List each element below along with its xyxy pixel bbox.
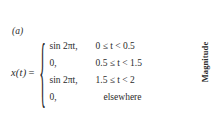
case-condition: 0.5 ≤ t < 1.5 — [92, 55, 154, 72]
case-condition: 1.5 ≤ t < 2 — [92, 72, 154, 89]
case-expression: sin 2πt, — [50, 72, 92, 89]
case-condition: elsewhere — [92, 89, 154, 106]
cases-grid: sin 2πt, 0 ≤ t < 0.5 0, 0.5 ≤ t < 1.5 si… — [50, 38, 154, 106]
case-condition: 0 ≤ t < 0.5 — [92, 38, 154, 55]
case-expression: 0, — [50, 89, 92, 106]
case-expression: 0, — [50, 55, 92, 72]
equals-sign: = — [26, 67, 34, 78]
vertical-axis-label-text: Magnitude — [200, 42, 210, 83]
function-name: x(t) — [11, 67, 26, 78]
figure-panel: (a) x(t)= { sin 2πt, 0 ≤ t < 0.5 0, 0.5 … — [0, 0, 218, 123]
piecewise-equation: x(t)= { sin 2πt, 0 ≤ t < 0.5 0, 0.5 ≤ t … — [11, 36, 154, 108]
vertical-axis-label: Magnitude — [199, 34, 211, 90]
case-expression: sin 2πt, — [50, 38, 92, 55]
equation-left-hand-side: x(t)= — [11, 67, 37, 78]
